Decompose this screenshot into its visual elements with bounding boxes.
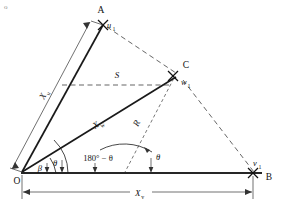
angle-arc-supplement (100, 144, 152, 152)
svg-text:R: R (130, 118, 142, 129)
label-x-v: X v (134, 188, 144, 200)
svg-text:v: v (253, 159, 257, 168)
diagram-root: o (0, 0, 285, 208)
arrowhead-xu-upper (83, 22, 90, 29)
svg-text:X: X (134, 188, 141, 198)
corner-mark: o (4, 3, 8, 11)
dimension-line-xu (10, 21, 103, 172)
svg-text:1: 1 (259, 164, 262, 170)
svg-text:w: w (181, 78, 187, 87)
svg-text:1: 1 (188, 83, 191, 89)
arrowhead-arc-upper (144, 147, 150, 153)
svg-text:u: u (107, 21, 111, 30)
label-w1: w 1 (181, 78, 191, 89)
label-angle-beta: β (37, 163, 43, 173)
arrowhead-xu-lower (12, 162, 19, 169)
label-angle-theta-origin: θ (53, 158, 58, 168)
vector-geometry-diagram: o (0, 0, 285, 208)
edge-A-C (107, 27, 176, 73)
label-point-C: C (183, 60, 189, 70)
arrowhead-xv-left (23, 189, 30, 195)
label-point-O: O (14, 176, 21, 186)
label-x-u: X u (36, 88, 51, 102)
svg-text:1: 1 (113, 26, 116, 32)
label-x-w: X w (90, 116, 106, 132)
label-point-A: A (98, 5, 105, 15)
edge-O-A (22, 25, 103, 172)
label-angle-supplement: 180° − θ (83, 153, 113, 163)
arrowhead-xv-right (245, 189, 252, 195)
label-u1: u 1 (107, 21, 116, 32)
label-s: S (115, 70, 120, 80)
label-point-B: B (266, 172, 272, 182)
svg-text:v: v (141, 194, 144, 200)
edge-C-B (183, 80, 254, 172)
label-r: R (130, 118, 142, 129)
label-angle-theta-right: θ (156, 152, 161, 162)
